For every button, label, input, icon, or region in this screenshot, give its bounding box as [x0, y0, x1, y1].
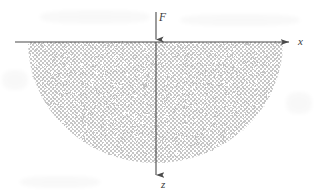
- diagram-svg: [0, 0, 315, 194]
- z-axis-label: z: [161, 179, 165, 190]
- x-axis-label: x: [298, 36, 303, 47]
- figure-container: F x z: [0, 0, 315, 194]
- load-label-F: F: [159, 12, 166, 24]
